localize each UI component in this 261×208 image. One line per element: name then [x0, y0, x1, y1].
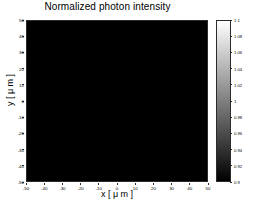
colorbar-tick-label: 1.06 — [234, 50, 242, 55]
colorbar — [216, 20, 231, 182]
colorbar-tick-label: 0.98 — [234, 115, 242, 120]
colorbar-ticks: 1.11.081.061.041.0210.980.960.940.920.9 — [232, 20, 261, 182]
y-tick-mark — [22, 149, 24, 150]
interference-pattern-image — [27, 21, 207, 181]
y-tick-mark — [22, 36, 24, 37]
colorbar-tick-mark — [230, 149, 232, 150]
colorbar-tick-mark — [230, 84, 232, 85]
chart-title: Normalized photon intensity — [0, 1, 215, 12]
x-tick-mark — [171, 183, 172, 185]
y-tick-mark — [22, 68, 24, 69]
colorbar-tick-mark — [230, 133, 232, 134]
x-tick-mark — [135, 183, 136, 185]
x-tick-mark — [153, 183, 154, 185]
x-tick-mark — [98, 183, 99, 185]
colorbar-tick-mark — [230, 68, 232, 69]
heatmap-bitmap — [27, 21, 207, 181]
x-axis-label: x [ μ m ] — [26, 189, 208, 199]
colorbar-tick-mark — [230, 117, 232, 118]
colorbar-tick-label: 0.94 — [234, 147, 242, 152]
colorbar-tick-label: 1 — [234, 99, 236, 104]
x-tick-mark — [62, 183, 63, 185]
colorbar-tick-mark — [230, 165, 232, 166]
colorbar-tick-label: 0.96 — [234, 131, 242, 136]
y-tick-mark — [22, 165, 24, 166]
x-tick-mark — [208, 183, 209, 185]
colorbar-tick-mark — [230, 101, 232, 102]
y-tick-mark — [22, 182, 24, 183]
x-tick-mark — [44, 183, 45, 185]
colorbar-tick-label: 1.04 — [234, 66, 242, 71]
y-axis-label: y [ μ m ] — [5, 50, 15, 130]
colorbar-tick-mark — [230, 20, 232, 21]
y-tick-mark — [22, 20, 24, 21]
y-tick-mark — [22, 52, 24, 53]
colorbar-tick-label: 1.02 — [234, 82, 242, 87]
y-tick-mark — [22, 101, 24, 102]
y-tick-mark — [22, 84, 24, 85]
colorbar-tick-mark — [230, 36, 232, 37]
y-tick-mark — [22, 117, 24, 118]
colorbar-tick-label: 1.1 — [234, 18, 240, 23]
colorbar-tick-label: 0.9 — [234, 180, 240, 185]
colorbar-gradient — [217, 21, 230, 181]
colorbar-tick-mark — [230, 182, 232, 183]
x-tick-mark — [117, 183, 118, 185]
colorbar-tick-label: 0.92 — [234, 163, 242, 168]
y-tick-mark — [22, 133, 24, 134]
colorbar-tick-mark — [230, 52, 232, 53]
x-tick-mark — [189, 183, 190, 185]
x-tick-mark — [26, 183, 27, 185]
x-tick-mark — [80, 183, 81, 185]
heatmap-plot-area — [26, 20, 208, 182]
figure: Normalized photon intensity 50403020100-… — [0, 0, 261, 208]
colorbar-tick-label: 1.08 — [234, 34, 242, 39]
